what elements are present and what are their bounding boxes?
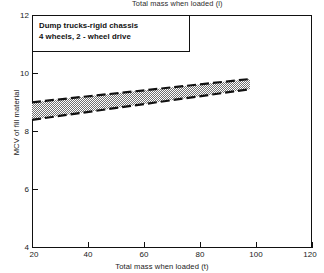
y-ticklabel-6: 6	[25, 185, 29, 194]
x-ticklabel-120: 120	[303, 250, 316, 259]
x-ticklabel-80: 80	[196, 250, 205, 259]
x-ticklabel-60: 60	[140, 250, 149, 259]
x-tick-100	[256, 242, 257, 248]
y-axis-label: MCV of fill material	[12, 53, 21, 193]
y-ticklabel-8: 8	[25, 127, 29, 136]
x-ticklabel-100: 100	[249, 250, 262, 259]
x-tick-80	[200, 242, 201, 248]
x-tick-120	[312, 242, 313, 248]
annotation-box: Dump trucks-rigid chassis 4 wheels, 2 - …	[32, 15, 190, 52]
x-tick-60	[144, 242, 145, 248]
x-tick-20	[32, 242, 33, 248]
y-ticklabel-12: 12	[20, 11, 29, 20]
x-ticklabel-40: 40	[84, 250, 93, 259]
x-ticklabel-20: 20	[30, 250, 39, 259]
top-caption: Total mass when loaded (l)	[132, 0, 223, 8]
x-axis-label: Total mass when loaded (t)	[0, 262, 324, 271]
chart-figure: Total mass when loaded (l) Dump trucks-r…	[0, 0, 324, 273]
x-tick-40	[88, 242, 89, 248]
annotation-line-2: 4 wheels, 2 - wheel drive	[39, 31, 189, 42]
y-tick-8	[32, 131, 38, 132]
y-tick-6	[32, 189, 38, 190]
y-ticklabel-4: 4	[25, 243, 29, 252]
y-tick-12	[32, 15, 38, 16]
y-tick-10	[32, 73, 38, 74]
y-ticklabel-10: 10	[20, 69, 29, 78]
annotation-line-1: Dump trucks-rigid chassis	[39, 20, 189, 31]
